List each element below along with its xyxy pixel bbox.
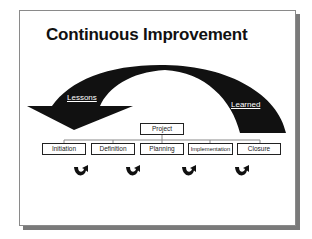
- lessons-label: Lessons: [67, 93, 97, 102]
- connector-lines: [64, 135, 260, 143]
- phase-box-closure: Closure: [237, 143, 281, 155]
- learned-label: Learned: [231, 100, 260, 109]
- phase-box-initiation: Initiation: [42, 143, 86, 155]
- u-turn-arrow-icon: [126, 165, 140, 175]
- u-turn-arrows: [74, 165, 249, 175]
- phase-box-implementation: Implementation: [188, 143, 233, 155]
- project-box: Project: [140, 123, 184, 135]
- u-turn-arrow-icon: [74, 165, 88, 175]
- u-turn-arrow-icon: [182, 165, 196, 175]
- diagram-art: [0, 0, 312, 239]
- u-turn-arrow-icon: [235, 165, 249, 175]
- phase-box-planning: Planning: [140, 143, 184, 155]
- phase-box-definition: Definition: [91, 143, 135, 155]
